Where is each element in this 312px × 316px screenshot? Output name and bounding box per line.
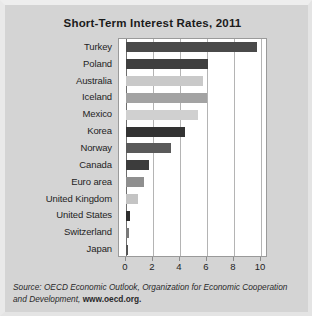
bar [126, 211, 130, 221]
category-label-row: Mexico [5, 105, 116, 122]
chart-figure: Short-Term Interest Rates, 2011 TurkeyPo… [0, 0, 312, 316]
category-label: United States [56, 209, 112, 220]
category-label: Japan [87, 243, 112, 254]
value-axis-ticks: 0246810 [118, 257, 267, 263]
category-label-row: Korea [5, 122, 116, 139]
bar [126, 93, 207, 103]
tick-label: 0 [122, 261, 127, 272]
bar-row [119, 157, 266, 174]
source-prefix: Source: [13, 282, 42, 292]
bar-row [119, 207, 266, 224]
bar-row [119, 174, 266, 191]
source-note: Source: OECD Economic Outlook, Organizat… [13, 282, 298, 305]
category-label: United Kingdom [46, 193, 112, 204]
category-label-row: Turkey [5, 38, 116, 55]
tick-label: 6 [203, 261, 208, 272]
bar-row [119, 73, 266, 90]
bar [126, 177, 144, 187]
bar [126, 194, 138, 204]
bar [126, 110, 198, 120]
category-label-row: Poland [5, 55, 116, 72]
bar [126, 143, 171, 153]
category-label: Mexico [83, 108, 113, 119]
category-label-row: United States [5, 206, 116, 223]
category-label: Iceland [82, 91, 112, 102]
bar-row [119, 123, 266, 140]
category-label-row: Norway [5, 139, 116, 156]
bar-row [119, 106, 266, 123]
category-label-row: Canada [5, 156, 116, 173]
category-label: Poland [83, 58, 112, 69]
bar-row [119, 241, 266, 258]
bar [126, 245, 128, 255]
category-label-row: Iceland [5, 89, 116, 106]
tick-label: 4 [176, 261, 181, 272]
source-url: www.oecd.org. [83, 294, 142, 304]
category-label: Australia [76, 75, 112, 86]
bar-row [119, 56, 266, 73]
bar [126, 42, 257, 52]
category-axis-labels: TurkeyPolandAustraliaIcelandMexicoKoreaN… [5, 38, 116, 257]
tick-label: 2 [149, 261, 154, 272]
category-label-row: Euro area [5, 173, 116, 190]
category-label: Norway [80, 142, 112, 153]
category-label: Euro area [71, 176, 112, 187]
chart-title: Short-Term Interest Rates, 2011 [5, 17, 300, 29]
bar-series [119, 39, 266, 256]
category-label-row: Australia [5, 72, 116, 89]
category-label: Turkey [84, 41, 112, 52]
chart-inner: Short-Term Interest Rates, 2011 TurkeyPo… [5, 5, 308, 312]
category-label-row: Switzerland [5, 223, 116, 240]
bar-row [119, 140, 266, 157]
bar [126, 228, 129, 238]
bar [126, 76, 203, 86]
bar [126, 160, 149, 170]
bar-row [119, 90, 266, 107]
tick-label: 8 [230, 261, 235, 272]
plot-area [118, 38, 267, 257]
bar [126, 127, 185, 137]
bar-row [119, 39, 266, 56]
category-label: Switzerland [64, 226, 112, 237]
source-publication: OECD Economic Outlook [44, 282, 138, 292]
category-label: Korea [87, 125, 112, 136]
category-label-row: Japan [5, 240, 116, 257]
category-label-row: United Kingdom [5, 190, 116, 207]
bar [126, 59, 208, 69]
bar-row [119, 191, 266, 208]
tick-label: 10 [255, 261, 266, 272]
category-label: Canada [79, 159, 112, 170]
bar-row [119, 224, 266, 241]
